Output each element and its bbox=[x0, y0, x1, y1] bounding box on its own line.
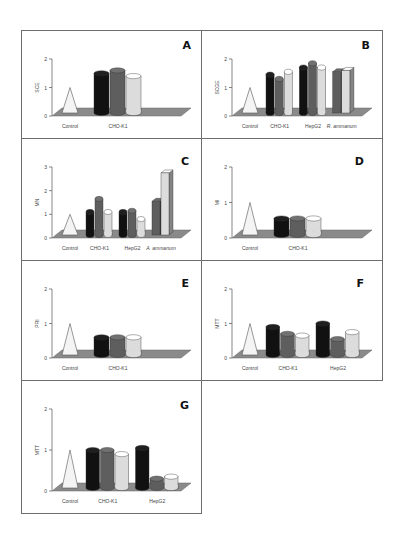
chart-c: 0123MNControlCHO-K1HepG2A. ammanum bbox=[22, 139, 203, 262]
x-category-label: R. ammanum bbox=[327, 123, 357, 129]
bar bbox=[318, 68, 326, 113]
x-category-label: Control bbox=[62, 245, 78, 251]
bar bbox=[281, 334, 295, 355]
x-category-label: CHO-K1 bbox=[109, 365, 128, 371]
panel-letter-a: A bbox=[182, 39, 191, 52]
bar bbox=[110, 70, 125, 113]
y-tick-label: 2 bbox=[224, 286, 227, 292]
x-category-label: Control bbox=[242, 365, 258, 371]
bar bbox=[86, 450, 100, 488]
panel-letter-f: F bbox=[356, 277, 364, 290]
x-category-label: Control bbox=[242, 123, 258, 129]
y-tick-label: 2 bbox=[44, 286, 47, 292]
panel-e: 012PRIControlCHO-K1 E bbox=[21, 260, 202, 381]
panel-letter-d: D bbox=[355, 155, 364, 168]
y-tick-label: 0 bbox=[44, 113, 47, 119]
x-category-label: HepG2 bbox=[305, 123, 321, 129]
x-category-label: CHO-K1 bbox=[289, 245, 308, 251]
y-axis-label: MTT bbox=[34, 445, 40, 455]
panel-g: 012MTTControlCHO-K1HepG2 G bbox=[21, 380, 202, 514]
y-tick-label: 1 bbox=[224, 200, 227, 206]
x-category-label: HepG2 bbox=[125, 245, 141, 251]
chart-e: 012PRIControlCHO-K1 bbox=[22, 261, 203, 382]
y-tick-label: 0 bbox=[44, 235, 47, 241]
panel-c: 0123MNControlCHO-K1HepG2A. ammanum C bbox=[21, 138, 202, 261]
x-category-label: CHO-K1 bbox=[98, 498, 117, 504]
x-category-label: Control bbox=[242, 245, 258, 251]
bar bbox=[101, 450, 115, 488]
bar bbox=[345, 332, 359, 355]
y-tick-label: 2 bbox=[44, 188, 47, 194]
y-axis-label: MN bbox=[34, 198, 40, 206]
control-cone bbox=[62, 450, 78, 488]
y-tick-label: 0 bbox=[224, 355, 227, 361]
y-tick-label: 1 bbox=[224, 85, 227, 91]
panel-f: 012MTTControlCHO-K1HepG2 F bbox=[201, 260, 383, 381]
y-axis-label: SCE bbox=[34, 82, 40, 93]
control-cone bbox=[242, 324, 258, 356]
bar bbox=[104, 212, 112, 235]
y-tick-label: 2 bbox=[44, 56, 47, 62]
chart-b: 012SCGEControlCHO-K1HepG2R. ammanum bbox=[202, 31, 384, 140]
bar bbox=[275, 79, 283, 113]
y-axis-label: PRI bbox=[34, 319, 40, 327]
panel-letter-e: E bbox=[181, 277, 189, 290]
bar bbox=[266, 327, 280, 355]
bar bbox=[161, 173, 169, 235]
y-axis-label: MTT bbox=[214, 318, 220, 328]
y-tick-label: 2 bbox=[44, 406, 47, 412]
bar bbox=[95, 199, 103, 235]
x-category-label: CHO-K1 bbox=[90, 245, 109, 251]
chart-a: 012SCEControlCHO-K1 bbox=[22, 31, 203, 140]
panel-a: 012SCEControlCHO-K1 A bbox=[21, 30, 202, 139]
panel-d: 012MIControlCHO-K1 D bbox=[201, 138, 383, 261]
bar bbox=[136, 448, 150, 488]
y-tick-label: 1 bbox=[44, 211, 47, 217]
y-tick-label: 1 bbox=[224, 321, 227, 327]
bar bbox=[299, 68, 307, 113]
y-tick-label: 0 bbox=[224, 113, 227, 119]
bar bbox=[119, 212, 127, 235]
y-tick-label: 2 bbox=[224, 56, 227, 62]
bar bbox=[115, 454, 129, 488]
x-category-label: Control bbox=[62, 123, 78, 129]
x-category-label: CHO-K1 bbox=[270, 123, 289, 129]
control-cone bbox=[62, 324, 78, 356]
x-category-label: CHO-K1 bbox=[109, 123, 128, 129]
control-cone bbox=[62, 88, 78, 114]
x-category-label: A. ammanum bbox=[145, 245, 176, 251]
x-category-label: Control bbox=[62, 498, 78, 504]
x-category-label: HepG2 bbox=[149, 498, 165, 504]
y-axis-label: MI bbox=[214, 200, 220, 206]
y-tick-label: 0 bbox=[224, 235, 227, 241]
bar bbox=[128, 211, 136, 235]
control-cone bbox=[242, 88, 258, 114]
bar bbox=[94, 73, 109, 113]
bar bbox=[308, 63, 316, 113]
bar bbox=[284, 72, 292, 113]
bar bbox=[86, 212, 94, 235]
y-tick-label: 2 bbox=[224, 164, 227, 170]
y-tick-label: 1 bbox=[44, 447, 47, 453]
x-category-label: Control bbox=[62, 365, 78, 371]
control-cone bbox=[62, 214, 78, 235]
y-tick-label: 0 bbox=[44, 355, 47, 361]
bar bbox=[342, 70, 350, 113]
bar bbox=[266, 75, 274, 113]
panel-b: 012SCGEControlCHO-K1HepG2R. ammanum B bbox=[201, 30, 383, 139]
panel-letter-g: G bbox=[180, 399, 189, 412]
chart-g: 012MTTControlCHO-K1HepG2 bbox=[22, 381, 203, 515]
control-cone bbox=[242, 203, 258, 236]
panel-letter-c: C bbox=[181, 155, 189, 168]
y-axis-label: SCGE bbox=[214, 80, 220, 95]
bar bbox=[316, 324, 330, 356]
bar bbox=[152, 201, 160, 235]
y-tick-label: 1 bbox=[44, 321, 47, 327]
x-category-label: HepG2 bbox=[330, 365, 346, 371]
bar bbox=[333, 72, 341, 113]
y-tick-label: 0 bbox=[44, 488, 47, 494]
bar bbox=[126, 76, 141, 113]
panel-letter-b: B bbox=[362, 39, 370, 52]
y-tick-label: 1 bbox=[44, 85, 47, 91]
y-tick-label: 3 bbox=[44, 164, 47, 170]
